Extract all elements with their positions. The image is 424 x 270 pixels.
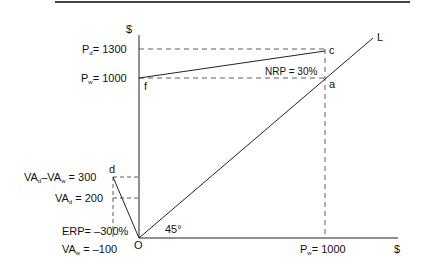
vaw-value: = –100 [80, 243, 117, 255]
point-d-label: d [109, 163, 115, 175]
x-axis-unit-label: $ [394, 243, 400, 255]
va-diff-value: = 300 [66, 171, 97, 183]
pd-value: = 1300 [93, 43, 127, 55]
line-l-45-degree [139, 38, 373, 238]
line-l-label: L [377, 31, 383, 43]
va-diff-b: VA [47, 171, 61, 183]
vaw-main: VA [62, 243, 76, 255]
va-diff-label: VAd–VAw = 300 [24, 171, 96, 187]
angle-label: 45° [165, 223, 182, 235]
origin-label: O [134, 239, 143, 251]
vad-value: = 200 [72, 192, 103, 204]
point-f-label: f [144, 80, 147, 92]
vad-main: VA [55, 192, 69, 204]
point-c-label: c [329, 44, 335, 56]
vad-label: VAd = 200 [55, 192, 103, 208]
pw-x-label: Pw= 1000 [300, 243, 346, 259]
pw-x-value: = 1000 [312, 243, 346, 255]
pd-label: Pd= 1300 [82, 43, 127, 59]
point-a-label: a [329, 78, 335, 90]
y-axis-unit-label: $ [126, 23, 132, 35]
va-diff-a: VA [24, 171, 38, 183]
erp-label: ERP= –300% [62, 225, 128, 237]
nrp-label: NRP = 30% [265, 66, 317, 78]
vaw-label: VAw = –100 [62, 243, 117, 259]
pw-y-value: = 1000 [93, 72, 127, 84]
pw-y-label: Pw= 1000 [81, 72, 127, 88]
